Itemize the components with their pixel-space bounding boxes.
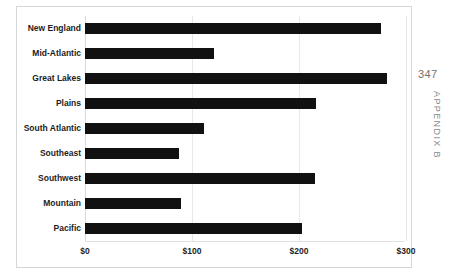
chart-frame: New EnglandMid-AtlanticGreat LakesPlains…: [16, 6, 412, 268]
category-label: Plains: [17, 91, 81, 116]
plot-area: [85, 16, 406, 241]
bar: [85, 123, 204, 134]
category-axis: New EnglandMid-AtlanticGreat LakesPlains…: [17, 16, 81, 241]
running-head: APPENDIX B: [432, 84, 442, 166]
category-label: Pacific: [17, 216, 81, 241]
value-tick-label: $100: [183, 246, 202, 256]
page-number: 347: [418, 68, 456, 80]
value-tick-label: $300: [397, 246, 416, 256]
category-label: Southwest: [17, 166, 81, 191]
bar-row: [85, 116, 406, 141]
bar-series: [85, 16, 406, 241]
bar: [85, 148, 179, 159]
category-label: Great Lakes: [17, 66, 81, 91]
bar: [85, 73, 387, 84]
bar: [85, 98, 316, 109]
bar: [85, 23, 381, 34]
category-label: Mountain: [17, 191, 81, 216]
bar: [85, 198, 181, 209]
bar-row: [85, 66, 406, 91]
bar-row: [85, 41, 406, 66]
category-label: South Atlantic: [17, 116, 81, 141]
bar: [85, 173, 315, 184]
value-tick-label: $0: [80, 246, 89, 256]
gridline-300: [406, 16, 407, 241]
plot-bottom-rule: [85, 241, 404, 242]
value-tick-label: $200: [290, 246, 309, 256]
bar: [85, 223, 302, 234]
bar-row: [85, 216, 406, 241]
bar-row: [85, 16, 406, 41]
value-axis: $0$100$200$300: [85, 246, 406, 264]
bar-row: [85, 91, 406, 116]
category-label: Mid-Atlantic: [17, 41, 81, 66]
bar: [85, 48, 214, 59]
bar-row: [85, 141, 406, 166]
page-furniture: 347 APPENDIX B: [418, 0, 456, 280]
bar-row: [85, 191, 406, 216]
bar-row: [85, 166, 406, 191]
category-label: Southeast: [17, 141, 81, 166]
category-label: New England: [17, 16, 81, 41]
